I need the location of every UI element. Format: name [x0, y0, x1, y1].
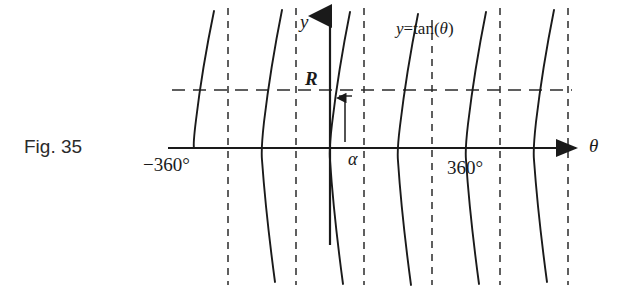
tangent-branch — [194, 11, 214, 148]
x-axis-label: θ — [589, 136, 598, 155]
alpha-measure-arrow — [339, 96, 352, 142]
equation-lhs: y — [396, 19, 404, 38]
angle-alpha-label: α — [348, 150, 357, 168]
figure-caption: Fig. 35 — [24, 137, 82, 156]
tangent-branch — [534, 10, 554, 282]
equation-label: y=tan(θ) — [396, 20, 454, 37]
equation-paren-close: ) — [448, 19, 454, 38]
tangent-function-plot — [0, 0, 618, 289]
x-tick-label-minus-360: −360° — [143, 155, 190, 174]
equation-argument: θ — [440, 19, 448, 38]
tangent-branch — [262, 10, 282, 282]
y-axis-label: y — [300, 12, 308, 31]
equation-function: tan — [413, 19, 434, 38]
tangent-branch — [398, 14, 418, 285]
reference-level-label: R — [305, 69, 318, 88]
equation-equals: = — [404, 19, 414, 38]
x-tick-label-360: 360° — [447, 158, 483, 177]
figure-container: Fig. 35 −360° 360° y θ R α y=tan(θ) — [0, 0, 618, 289]
